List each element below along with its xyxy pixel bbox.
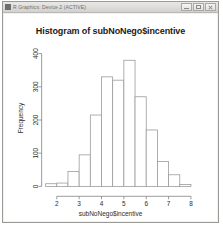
maximize-button[interactable] bbox=[193, 3, 204, 11]
histogram-bar bbox=[46, 184, 57, 187]
close-button[interactable] bbox=[205, 3, 216, 11]
x-axis-tick-label: 7 bbox=[167, 200, 171, 207]
histogram-bar bbox=[146, 130, 157, 186]
histogram-bar bbox=[90, 115, 101, 186]
histogram-bar bbox=[68, 171, 79, 186]
window-controls bbox=[181, 3, 216, 11]
histogram-bar bbox=[180, 184, 191, 186]
histogram-bar bbox=[157, 161, 168, 186]
histogram-bar bbox=[79, 155, 90, 187]
x-axis-tick-label: 5 bbox=[122, 200, 126, 207]
x-axis-tick-label: 4 bbox=[100, 200, 104, 207]
x-axis-tick-label: 8 bbox=[189, 200, 193, 207]
r-graphics-window: R Graphics: Device 2 (ACTIVE) Histogram … bbox=[2, 1, 219, 223]
y-axis-tick-label: 300 bbox=[32, 81, 39, 92]
window-titlebar[interactable]: R Graphics: Device 2 (ACTIVE) bbox=[3, 2, 218, 13]
histogram-bar bbox=[124, 60, 135, 186]
y-axis-tick-label: 0 bbox=[32, 184, 39, 188]
y-axis-tick-label: 400 bbox=[32, 48, 39, 59]
y-axis-tick-label: 100 bbox=[32, 147, 39, 158]
histogram-bar bbox=[57, 183, 68, 186]
minimize-button[interactable] bbox=[181, 3, 192, 11]
histogram-bar bbox=[113, 80, 124, 186]
histogram-plot: 01002003004002345678 bbox=[4, 14, 217, 220]
x-axis-tick-label: 3 bbox=[77, 200, 81, 207]
x-axis-tick-label: 6 bbox=[144, 200, 148, 207]
histogram-bar bbox=[102, 77, 113, 187]
window-title: R Graphics: Device 2 (ACTIVE) bbox=[13, 4, 181, 10]
histogram-bar bbox=[169, 175, 180, 187]
histogram-bar bbox=[135, 97, 146, 187]
plot-canvas: Histogram of subNoNego$incentive Frequen… bbox=[4, 14, 217, 221]
r-graphics-icon bbox=[5, 4, 11, 10]
y-axis-tick-label: 200 bbox=[32, 114, 39, 125]
x-axis-tick-label: 2 bbox=[55, 200, 59, 207]
